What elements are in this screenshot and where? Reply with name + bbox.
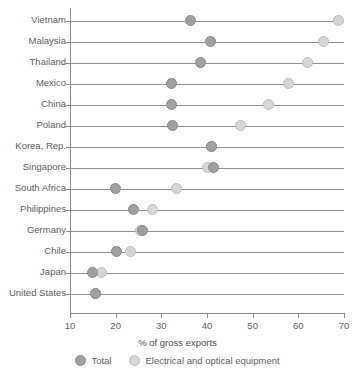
x-axis-tick — [116, 313, 117, 318]
x-axis-tick-label: 40 — [192, 320, 222, 331]
x-axis-tick-label: 30 — [146, 320, 176, 331]
chart-legend: Total Electrical and optical equipment — [0, 355, 355, 366]
data-row — [70, 294, 345, 295]
data-point-total — [205, 36, 216, 47]
data-row — [70, 21, 345, 22]
y-axis-label: Mexico — [2, 78, 66, 88]
y-axis-label: China — [2, 99, 66, 109]
data-row — [70, 42, 345, 43]
data-row — [70, 252, 345, 253]
x-axis-tick-label: 70 — [329, 320, 355, 331]
y-axis-label: Singapore — [2, 162, 66, 172]
y-axis-label: Philippines — [2, 204, 66, 214]
x-axis-title: % of gross exports — [0, 337, 355, 348]
x-axis-tick — [207, 313, 208, 318]
row-connector-line — [70, 21, 344, 22]
data-point-electrical-optical — [318, 36, 329, 47]
legend-item-total: Total — [75, 355, 111, 366]
data-point-total — [208, 162, 219, 173]
data-row — [70, 126, 345, 127]
row-connector-line — [70, 273, 344, 274]
data-row — [70, 147, 345, 148]
data-point-electrical-optical — [333, 15, 344, 26]
y-axis-label: Thailand — [2, 57, 66, 67]
x-axis-tick — [70, 313, 71, 318]
row-connector-line — [70, 210, 344, 211]
data-row — [70, 189, 345, 190]
data-row — [70, 105, 345, 106]
y-axis-label: Poland — [2, 120, 66, 130]
data-point-total — [137, 225, 148, 236]
x-axis-tick — [344, 313, 345, 318]
data-row — [70, 84, 345, 85]
y-axis-category-labels: VietnamMalaysiaThailandMexicoChinaPoland… — [0, 8, 66, 313]
x-axis-tick-label: 20 — [101, 320, 131, 331]
row-connector-line — [70, 105, 344, 106]
x-axis-tick-label: 60 — [283, 320, 313, 331]
legend-item-electrical-optical-equipment: Electrical and optical equipment — [129, 355, 279, 366]
data-row — [70, 63, 345, 64]
data-point-electrical-optical — [125, 246, 136, 257]
data-point-total — [128, 204, 139, 215]
row-connector-line — [70, 126, 344, 127]
row-connector-line — [70, 294, 344, 295]
legend-label-electrical-optical-equipment: Electrical and optical equipment — [145, 355, 279, 366]
y-axis-label: South Africa — [2, 183, 66, 193]
data-point-total — [111, 246, 122, 257]
y-axis-label: Chile — [2, 246, 66, 256]
y-axis-label: Germany — [2, 225, 66, 235]
data-point-electrical-optical — [235, 120, 246, 131]
data-point-total — [195, 57, 206, 68]
data-row — [70, 273, 345, 274]
y-axis-line — [70, 8, 71, 313]
y-axis-label: Korea, Rep. — [2, 141, 66, 151]
data-point-total — [167, 120, 178, 131]
plot-area — [70, 8, 344, 313]
x-axis-tick — [253, 313, 254, 318]
data-point-electrical-optical — [171, 183, 182, 194]
row-connector-line — [70, 231, 344, 232]
legend-label-total: Total — [91, 355, 111, 366]
data-point-electrical-optical — [283, 78, 294, 89]
data-point-total — [110, 183, 121, 194]
y-axis-label: Japan — [2, 267, 66, 277]
y-axis-label: Vietnam — [2, 15, 66, 25]
row-connector-line — [70, 84, 344, 85]
x-axis-ticks: 10203040506070 — [70, 313, 350, 333]
data-point-total — [90, 288, 101, 299]
data-point-electrical-optical — [263, 99, 274, 110]
y-axis-label: Malaysia — [2, 36, 66, 46]
data-row — [70, 231, 345, 232]
data-point-total — [166, 78, 177, 89]
y-axis-label: United States — [2, 288, 66, 298]
x-axis-tick — [298, 313, 299, 318]
dot-plot-chart: VietnamMalaysiaThailandMexicoChinaPoland… — [0, 0, 355, 375]
data-point-total — [185, 15, 196, 26]
x-axis-tick-label: 10 — [55, 320, 85, 331]
legend-swatch-electrical-optical-icon — [129, 355, 140, 366]
data-point-electrical-optical — [147, 204, 158, 215]
x-axis-tick — [161, 313, 162, 318]
data-point-total — [166, 99, 177, 110]
data-point-total — [206, 141, 217, 152]
legend-swatch-total-icon — [75, 355, 86, 366]
data-point-electrical-optical — [302, 57, 313, 68]
data-row — [70, 168, 345, 169]
x-axis-tick-label: 50 — [238, 320, 268, 331]
data-row — [70, 210, 345, 211]
